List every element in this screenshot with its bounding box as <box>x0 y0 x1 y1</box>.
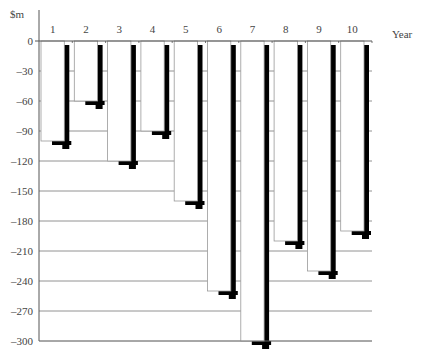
x-tick-label: 10 <box>347 23 359 35</box>
bar-year-5 <box>174 41 197 201</box>
bar-shadow-bottom <box>252 341 271 345</box>
bar-shadow-bottom <box>52 141 71 145</box>
x-tick-label: 2 <box>83 23 89 35</box>
bar-shadow-bottom <box>219 291 238 295</box>
bar-year-1 <box>41 41 64 141</box>
y-tick-label: –270 <box>10 305 34 317</box>
x-tick-label: 7 <box>250 23 256 35</box>
bar-shadow-bottom <box>85 101 104 105</box>
y-tick-label: –90 <box>16 125 34 137</box>
bar-year-4 <box>141 41 164 131</box>
bar-shadow-bottom <box>352 231 371 235</box>
bar-shadow-bottom <box>152 131 171 135</box>
y-tick-label: 0 <box>28 35 34 47</box>
bar-year-8 <box>274 41 297 241</box>
bar-shadow-bottom <box>119 161 138 165</box>
x-tick-label: 9 <box>316 23 322 35</box>
bars <box>41 41 371 349</box>
y-tick-label: –120 <box>10 155 34 167</box>
bar-shadow-bottom <box>185 201 204 205</box>
x-tick-label: 6 <box>216 23 222 35</box>
y-tick-label: –30 <box>16 65 34 77</box>
y-tick-label: –240 <box>10 275 34 287</box>
x-tick-label: 5 <box>183 23 189 35</box>
x-tick-label: 8 <box>283 23 289 35</box>
bar-year-2 <box>74 41 97 101</box>
bar-shadow-bottom <box>285 241 304 245</box>
x-tick-label: 1 <box>50 23 56 35</box>
y-tick-label: –300 <box>10 335 34 347</box>
bar-year-9 <box>307 41 330 271</box>
bar-year-3 <box>108 41 131 161</box>
y-axis-unit-label: $m <box>10 8 25 20</box>
bar-year-7 <box>241 41 264 341</box>
x-tick-label: 4 <box>150 23 156 35</box>
y-tick-label: –180 <box>10 215 34 227</box>
bar-year-10 <box>341 41 364 231</box>
x-tick-label: 3 <box>117 23 123 35</box>
y-tick-label: –60 <box>16 95 34 107</box>
bar-chart: 0–30–60–90–120–150–180–210–240–270–30012… <box>0 0 423 359</box>
bar-year-6 <box>208 41 231 291</box>
y-tick-label: –150 <box>10 185 34 197</box>
y-tick-label: –210 <box>10 245 34 257</box>
x-axis-title: Year <box>392 28 413 40</box>
bar-shadow-bottom <box>318 271 337 275</box>
